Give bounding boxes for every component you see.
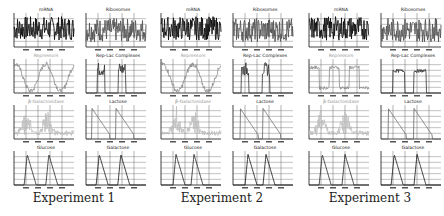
- svg-text:Ribosomes: Ribosomes: [401, 7, 426, 12]
- svg-text:mRNA: mRNA: [186, 7, 201, 12]
- svg-text:Lactose: Lactose: [109, 99, 127, 104]
- svg-text:β-Galactosidase: β-Galactosidase: [28, 99, 64, 104]
- svg-text:Rep-Lac Complexes: Rep-Lac Complexes: [391, 53, 436, 58]
- svg-text:Lactose: Lactose: [404, 99, 422, 104]
- subplot-glucose: Glucose: [157, 144, 229, 198]
- svg-text:Rep-Lac Complexes: Rep-Lac Complexes: [96, 53, 141, 58]
- svg-text:Repressors: Repressors: [34, 53, 59, 58]
- subplot-galactose: Galactose: [82, 144, 154, 198]
- svg-text:Lactose: Lactose: [256, 99, 274, 104]
- svg-text:Galactose: Galactose: [107, 145, 130, 150]
- svg-text:β-Galactosidase: β-Galactosidase: [175, 99, 211, 104]
- subplot-galactose: Galactose: [377, 144, 444, 198]
- svg-text:Repressors: Repressors: [329, 53, 354, 58]
- svg-text:Ribosomes: Ribosomes: [253, 7, 278, 12]
- subplot-glucose: Glucose: [10, 144, 82, 198]
- svg-text:Repressors: Repressors: [181, 53, 206, 58]
- svg-text:Glucose: Glucose: [37, 145, 55, 150]
- subplot-galactose: Galactose: [229, 144, 301, 198]
- svg-text:Galactose: Galactose: [254, 145, 277, 150]
- svg-text:Rep-Lac Complexes: Rep-Lac Complexes: [243, 53, 288, 58]
- svg-text:mRNA: mRNA: [39, 7, 54, 12]
- subplot-glucose: Glucose: [305, 144, 377, 198]
- svg-text:mRNA: mRNA: [334, 7, 349, 12]
- svg-text:Glucose: Glucose: [332, 145, 350, 150]
- svg-text:β-Galactosidase: β-Galactosidase: [323, 99, 359, 104]
- svg-text:Galactose: Galactose: [402, 145, 425, 150]
- svg-text:Glucose: Glucose: [184, 145, 202, 150]
- svg-text:Ribosomes: Ribosomes: [106, 7, 131, 12]
